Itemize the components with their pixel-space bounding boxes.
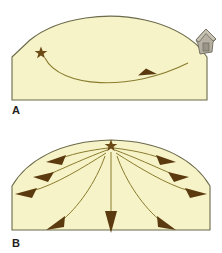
panel-b-label: B (12, 237, 20, 249)
panel-b: B (12, 140, 210, 249)
panel-a-edifice-body (12, 16, 207, 100)
panel-a-label: A (12, 104, 20, 116)
panel-a-house-icon (196, 29, 216, 54)
diagram-canvas: A (0, 0, 222, 253)
figure-container: A (0, 0, 222, 253)
panel-a: A (12, 16, 216, 116)
